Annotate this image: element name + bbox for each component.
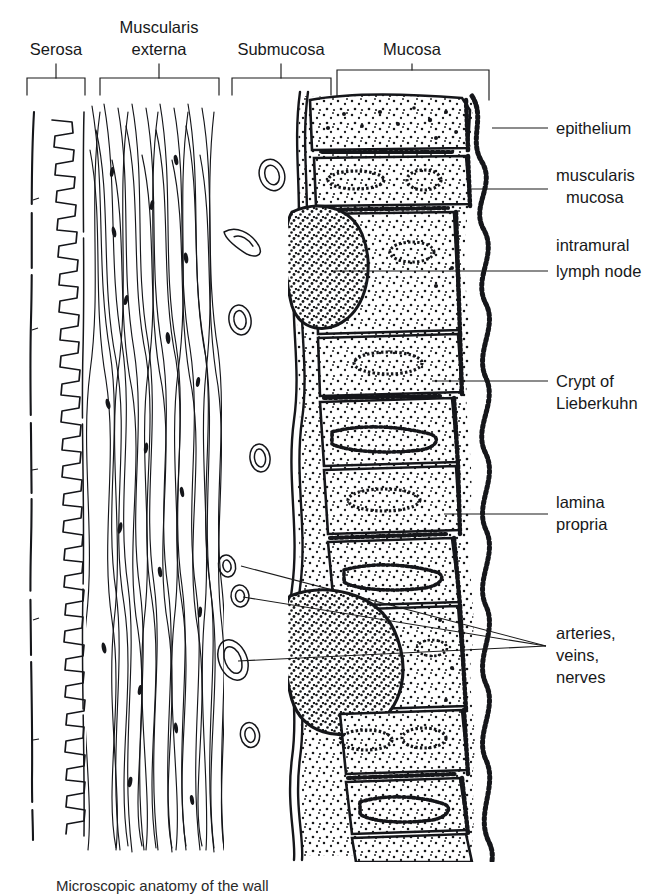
layer-mucosa bbox=[283, 92, 492, 862]
bracket-label-serosa: Serosa bbox=[30, 40, 83, 58]
side-label-epithelium-line1: epithelium bbox=[556, 119, 631, 137]
side-label-muscularis-mucosa-line2: mucosa bbox=[566, 188, 625, 206]
villus-compartment bbox=[285, 206, 460, 334]
villus-compartment bbox=[314, 156, 470, 206]
vessel-cross-section bbox=[238, 721, 261, 749]
layer-serosa bbox=[30, 112, 85, 840]
side-label-arteries-veins-nerves-line3: nerves bbox=[556, 668, 606, 686]
side-label-intramural-lymph-node-line2: lymph node bbox=[556, 262, 641, 280]
side-label-arteries-veins-nerves: arteries, veins, nerves bbox=[556, 624, 616, 686]
villus-compartment bbox=[346, 778, 468, 834]
bracket-submucosa: Submucosa bbox=[232, 40, 331, 95]
luminal-epithelium-border bbox=[472, 96, 492, 862]
figure-caption-text: Microscopic anatomy of the wall bbox=[56, 877, 269, 894]
side-label-crypt-of-lieberkuhn-line2: Lieberkuhn bbox=[556, 394, 638, 412]
bracket-muscularis-externa: Muscularis externa bbox=[100, 18, 219, 95]
side-label-epithelium: epithelium bbox=[556, 119, 631, 137]
side-label-muscularis-mucosa-line1: muscularis bbox=[556, 166, 635, 184]
serosa-squiggle-band bbox=[52, 120, 85, 834]
serosa-edge-ticks bbox=[32, 198, 39, 740]
side-label-intramural-lymph-node-line1: intramural bbox=[556, 236, 629, 254]
lymph-node-upper bbox=[285, 206, 368, 328]
side-label-lamina-propria-line1: lamina bbox=[556, 493, 605, 511]
vessel-cross-section bbox=[212, 635, 254, 684]
bracket-label-muscularis-externa-line2: externa bbox=[131, 40, 187, 58]
vessel-cross-section bbox=[230, 584, 250, 607]
intestinal-wall-diagram: Serosa Muscularis externa Submucosa Muco… bbox=[0, 0, 670, 896]
side-label-arteries-veins-nerves-line2: veins, bbox=[556, 646, 599, 664]
villus-compartment bbox=[324, 466, 460, 534]
side-label-crypt-of-lieberkuhn-line1: Crypt of bbox=[556, 372, 614, 390]
bracket-label-mucosa: Mucosa bbox=[383, 40, 442, 58]
bracket-submucosa-rule bbox=[232, 78, 331, 95]
vessel-cross-section bbox=[223, 220, 264, 264]
bracket-mucosa: Mucosa bbox=[337, 40, 489, 100]
vessel-cross-section bbox=[248, 443, 272, 474]
muscle-fiber-bundle bbox=[84, 104, 225, 852]
side-label-lamina-propria-line2: propria bbox=[556, 515, 608, 533]
villus-compartment bbox=[340, 710, 468, 774]
bracket-serosa-rule bbox=[27, 78, 85, 95]
bracket-label-submucosa: Submucosa bbox=[237, 40, 325, 58]
top-bracket-group: Serosa Muscularis externa Submucosa Muco… bbox=[27, 18, 489, 100]
villus-compartment bbox=[320, 398, 458, 466]
villus-compartment bbox=[310, 95, 470, 151]
side-label-muscularis-mucosa: muscularis mucosa bbox=[556, 166, 635, 206]
side-label-crypt-of-lieberkuhn: Crypt of Lieberkuhn bbox=[556, 372, 638, 412]
side-label-group: epithelium muscularis mucosa intramural … bbox=[556, 119, 641, 686]
side-label-intramural-lymph-node: intramural lymph node bbox=[556, 236, 641, 280]
figure-caption: Microscopic anatomy of the wall bbox=[56, 877, 269, 894]
villus-compartment bbox=[318, 334, 462, 396]
side-label-arteries-veins-nerves-line1: arteries, bbox=[556, 624, 616, 642]
bracket-serosa: Serosa bbox=[27, 40, 85, 95]
figure-root: Serosa Muscularis externa Submucosa Muco… bbox=[0, 0, 670, 896]
villus-compartment bbox=[352, 834, 472, 862]
bracket-label-muscularis-externa-line1: Muscularis bbox=[120, 18, 199, 36]
serosa-outer-membrane bbox=[30, 112, 34, 840]
layer-muscularis-externa bbox=[84, 104, 225, 852]
vessel-cross-section bbox=[255, 156, 289, 194]
side-label-lamina-propria: lamina propria bbox=[556, 493, 608, 533]
bracket-muscularis-externa-rule bbox=[100, 78, 219, 95]
vessel-cross-section bbox=[227, 303, 254, 336]
